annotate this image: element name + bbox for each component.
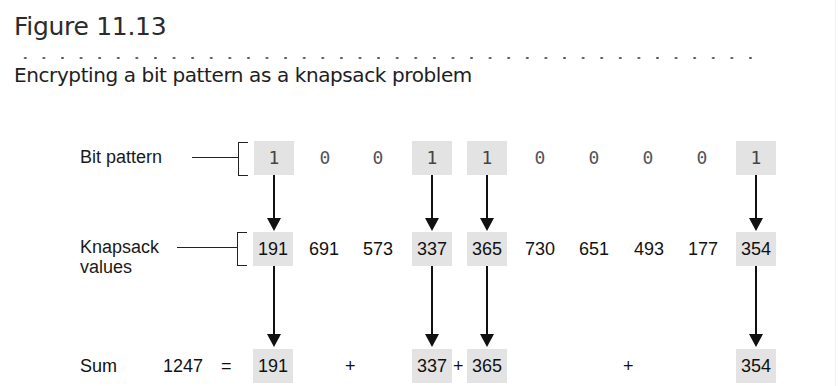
- bit-pattern-label: Bit pattern: [80, 147, 162, 167]
- figure-number: Figure 11.13: [14, 12, 166, 41]
- knapsack-cell: 493: [629, 232, 669, 266]
- knapsack-cell: 365: [467, 232, 507, 266]
- plus-sign: +: [345, 349, 356, 383]
- bit-cell: 0: [628, 141, 668, 175]
- bit-cell: 0: [305, 141, 345, 175]
- bit-cell: 1: [254, 141, 294, 175]
- dotted-divider: [16, 56, 766, 60]
- knapsack-cell: 177: [683, 232, 723, 266]
- knapsack-cell: 730: [520, 232, 560, 266]
- bit-cell: 1: [467, 141, 507, 175]
- plus-sign: +: [623, 349, 634, 383]
- knapsack-cell: 691: [304, 232, 344, 266]
- sum-term: 365: [467, 349, 507, 383]
- bit-cell: 0: [574, 141, 614, 175]
- plus-sign: +: [453, 349, 464, 383]
- knapsack-cell: 651: [574, 232, 614, 266]
- bit-cell: 0: [520, 141, 560, 175]
- equals-sign: =: [221, 349, 232, 383]
- knapsack-cell: 191: [253, 232, 293, 266]
- sum-term: 337: [412, 349, 452, 383]
- bit-cell: 0: [682, 141, 722, 175]
- sum-label: Sum: [80, 349, 117, 383]
- knapsack-cell: 337: [412, 232, 452, 266]
- knapsack-label-line2: values: [80, 257, 159, 277]
- sum-term: 354: [736, 349, 776, 383]
- sum-total: 1247: [163, 349, 203, 383]
- page-edge: [835, 0, 836, 386]
- bit-cell: 1: [412, 141, 452, 175]
- knapsack-cell: 573: [358, 232, 398, 266]
- knapsack-cell: 354: [736, 232, 776, 266]
- knapsack-label: Knapsack values: [80, 237, 159, 277]
- bit-cell: 0: [358, 141, 398, 175]
- bit-pattern-bracket: [238, 142, 248, 176]
- knapsack-leader: [177, 247, 237, 248]
- bit-pattern-leader: [192, 157, 238, 158]
- bit-cell: 1: [736, 141, 776, 175]
- figure-caption: Encrypting a bit pattern as a knapsack p…: [14, 63, 472, 87]
- sum-term: 191: [253, 349, 293, 383]
- knapsack-bracket: [237, 232, 247, 266]
- knapsack-label-line1: Knapsack: [80, 237, 159, 257]
